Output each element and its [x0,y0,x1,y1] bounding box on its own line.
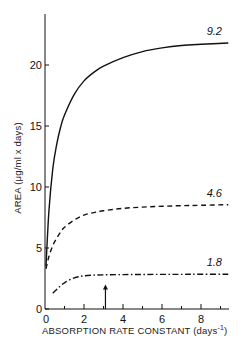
x-axis-title-main: ABSORPTION RATE CONSTANT (days [42,325,217,336]
x-ticks: 02468 [43,304,221,325]
axes [45,14,229,309]
y-axis-title: AREA (μg/ml x days) [12,122,23,214]
y-tick-label: 5 [36,242,42,254]
y-tick-label: 0 [36,303,42,315]
x-tick-label: 0 [43,313,49,325]
annotations [103,285,108,309]
x-axis-title: ABSORPTION RATE CONSTANT (days-1) [42,324,227,336]
series-line-9-2 [46,43,228,266]
x-tick-label: 4 [120,313,126,325]
x-tick-label: 6 [159,313,165,325]
chart: 05101520 02468 9.24.61.8 ABSORPTION RATE… [0,0,243,352]
series-label: 9.2 [207,25,222,37]
series-label: 1.8 [207,256,223,268]
x-tick-label: 2 [81,313,87,325]
series-group [46,43,228,293]
series-line-1-8 [53,274,229,293]
x-axis-title-sup: -1 [217,324,224,331]
y-tick-label: 20 [30,59,42,71]
x-tick-label: 8 [198,313,204,325]
x-axis-title-close: ) [224,325,227,336]
y-ticks: 05101520 [30,59,49,315]
y-tick-label: 10 [30,181,42,193]
series-line-4-6 [46,205,228,269]
series-labels: 9.24.61.8 [207,25,223,268]
arrow-up-icon [103,285,108,290]
y-tick-label: 15 [30,120,42,132]
series-label: 4.6 [207,187,223,199]
